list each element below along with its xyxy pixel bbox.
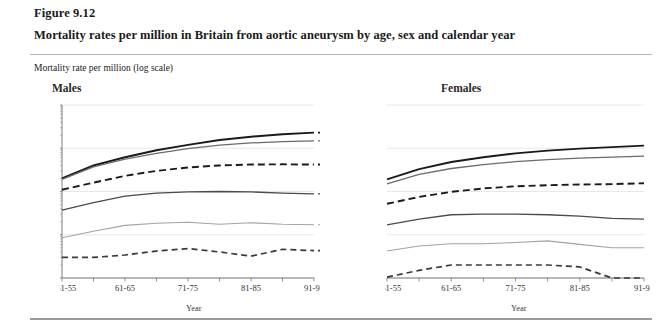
svg-text:1951-55: 1951-55 bbox=[385, 283, 401, 293]
figure-label: Figure 9.12 bbox=[34, 6, 95, 21]
x-axis-label-females: Year bbox=[511, 303, 527, 313]
figure-page: Figure 9.12 Mortality rates per million … bbox=[0, 0, 668, 331]
y-axis-caption: Mortality rate per million (log scale) bbox=[34, 63, 173, 73]
series-line-60-69 bbox=[387, 183, 644, 204]
chart-panel-females: 1951-5561-6571-7581-8591-92 bbox=[385, 101, 650, 296]
series-line-80-84 bbox=[62, 133, 314, 179]
series-line-60-69 bbox=[62, 164, 314, 189]
panel-title-males: Males bbox=[52, 82, 81, 94]
divider-bottom bbox=[30, 318, 652, 320]
svg-text:81-85: 81-85 bbox=[570, 283, 590, 293]
svg-text:61-65: 61-65 bbox=[441, 283, 461, 293]
svg-text:91-92: 91-92 bbox=[634, 283, 650, 293]
series-line-70-79 bbox=[62, 141, 314, 180]
series-line-30-39 bbox=[62, 249, 314, 258]
series-line-30-39 bbox=[387, 265, 644, 278]
panel-title-females: Females bbox=[441, 82, 481, 94]
series-line-50-59 bbox=[62, 192, 314, 211]
page-title: Mortality rates per million in Britain f… bbox=[34, 28, 515, 43]
svg-text:91-92: 91-92 bbox=[304, 283, 320, 293]
svg-text:61-65: 61-65 bbox=[115, 283, 135, 293]
svg-text:1951-55: 1951-55 bbox=[60, 283, 76, 293]
series-line-40-49 bbox=[387, 241, 644, 251]
svg-text:71-75: 71-75 bbox=[178, 283, 198, 293]
svg-text:81-85: 81-85 bbox=[241, 283, 261, 293]
series-line-80-84 bbox=[387, 146, 644, 180]
series-line-70-79 bbox=[387, 156, 644, 184]
chart-svg-females: 1951-5561-6571-7581-8591-92 bbox=[385, 101, 650, 296]
divider-top bbox=[30, 54, 652, 55]
x-axis-label-males: Year bbox=[186, 303, 202, 313]
svg-text:71-75: 71-75 bbox=[506, 283, 526, 293]
chart-svg-males: 1101001,00010,0001951-5561-6571-7581-859… bbox=[60, 101, 320, 296]
chart-panel-males: 1101001,00010,0001951-5561-6571-7581-859… bbox=[60, 101, 320, 296]
series-line-40-49 bbox=[62, 222, 314, 238]
series-line-50-59 bbox=[387, 214, 644, 225]
